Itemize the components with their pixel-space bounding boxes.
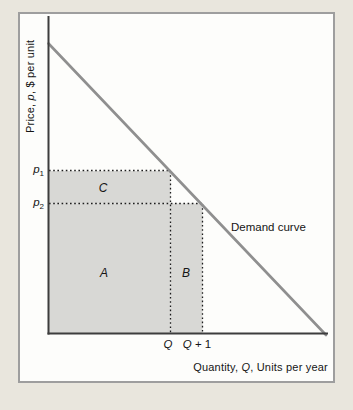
- price-tick-p2: p2: [18, 195, 44, 209]
- region-label-c: C: [95, 181, 111, 195]
- figure: Price, p, $ per unit Quantity, Q, Units …: [0, 0, 353, 410]
- region-label-a: A: [96, 266, 112, 280]
- quantity-tick-q: Q: [160, 337, 176, 351]
- quantity-tick-q-plus-1: Q + 1: [180, 337, 214, 351]
- x-axis-label: Quantity, Q, Units per year: [193, 361, 328, 373]
- demand-curve-label: Demand curve: [231, 221, 306, 233]
- y-axis-label: Price, p, $ per unit: [24, 40, 36, 133]
- price-tick-p1: p1: [18, 162, 44, 176]
- plot-canvas: [0, 0, 353, 410]
- region-label-b: B: [178, 266, 194, 280]
